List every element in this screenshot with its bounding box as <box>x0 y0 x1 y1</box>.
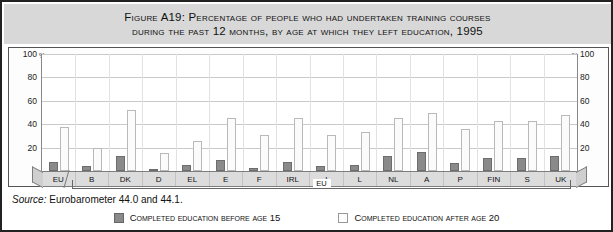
legend-item-2[interactable]: Completed education after age 20 <box>338 212 499 223</box>
y-axis-tick-100: 100 <box>580 50 606 59</box>
chart-legend: Completed education before age 15Complet… <box>2 212 611 223</box>
y-axis-tick-20: 20 <box>11 144 37 153</box>
bar-group-fin[interactable] <box>477 54 510 171</box>
figure-title-band: Figure A19: Percentage of people who had… <box>4 4 611 44</box>
bar-uk-series-1[interactable] <box>550 156 559 171</box>
bar-group-eu[interactable] <box>42 54 75 171</box>
legend-item-1[interactable]: Completed education before age 15 <box>114 212 281 223</box>
chart-plot-area: % % 10080604020 10080604020 EUBDKDELEFIR… <box>8 47 609 187</box>
bar-group-uk[interactable] <box>544 54 577 171</box>
bar-b-series-2[interactable] <box>93 148 102 171</box>
page-title-line-2: during the past 12 months, by age at whi… <box>132 24 483 38</box>
bar-nl-series-2[interactable] <box>394 118 403 171</box>
bar-group-nl[interactable] <box>376 54 409 171</box>
bar-group-b[interactable] <box>75 54 108 171</box>
bar-group-i[interactable] <box>310 54 343 171</box>
bar-irl-series-2[interactable] <box>294 118 303 171</box>
y-axis-tick-60: 60 <box>580 97 606 106</box>
bar-f-series-2[interactable] <box>260 135 269 171</box>
bar-group-f[interactable] <box>243 54 276 171</box>
bar-dk-series-2[interactable] <box>127 110 136 171</box>
bar-fin-series-2[interactable] <box>494 121 503 171</box>
bar-s-series-2[interactable] <box>528 121 537 171</box>
eu-bracket-label: EU <box>313 179 331 188</box>
page-title-line-1: Figure A19: Percentage of people who had… <box>124 10 490 24</box>
bar-group-d[interactable] <box>142 54 175 171</box>
y-axis-tick-40: 40 <box>580 120 606 129</box>
dark-swatch-icon <box>114 213 124 223</box>
bar-e-series-2[interactable] <box>227 118 236 171</box>
bar-dk-series-1[interactable] <box>116 156 125 171</box>
light-swatch-icon <box>338 213 348 223</box>
source-label: Source: <box>12 194 46 205</box>
bar-eu-series-1[interactable] <box>49 162 58 171</box>
y-axis-tick-40: 40 <box>11 120 37 129</box>
bar-i-series-2[interactable] <box>327 135 336 171</box>
bar-fin-series-1[interactable] <box>483 158 492 171</box>
bar-p-series-1[interactable] <box>450 163 459 171</box>
source-text: Eurobarometer 44.0 and 44.1. <box>46 194 182 205</box>
bar-l-series-2[interactable] <box>361 132 370 171</box>
y-axis-tick-80: 80 <box>580 73 606 82</box>
bar-group-el[interactable] <box>176 54 209 171</box>
bar-uk-series-2[interactable] <box>561 115 570 171</box>
bar-group-e[interactable] <box>209 54 242 171</box>
y-axis-tick-60: 60 <box>11 97 37 106</box>
bar-group-dk[interactable] <box>109 54 142 171</box>
bar-a-series-1[interactable] <box>417 152 426 171</box>
figure-container: Figure A19: Percentage of people who had… <box>0 0 613 232</box>
bar-groups <box>42 54 577 171</box>
bar-el-series-2[interactable] <box>193 141 202 171</box>
bar-group-irl[interactable] <box>276 54 309 171</box>
bar-s-series-1[interactable] <box>517 158 526 171</box>
source-note: Source: Eurobarometer 44.0 and 44.1. <box>12 194 183 205</box>
bar-a-series-2[interactable] <box>428 113 437 172</box>
y-axis-tick-20: 20 <box>580 144 606 153</box>
bar-irl-series-1[interactable] <box>283 162 292 171</box>
legend-label-2: Completed education after age 20 <box>354 212 499 223</box>
bar-p-series-2[interactable] <box>461 129 470 171</box>
bar-nl-series-1[interactable] <box>383 156 392 171</box>
chart-canvas <box>41 54 578 171</box>
bar-eu-series-2[interactable] <box>60 127 69 171</box>
legend-label-1: Completed education before age 15 <box>130 212 281 223</box>
eu-bracket: EU <box>72 180 571 189</box>
y-axis-tick-80: 80 <box>11 73 37 82</box>
bar-e-series-1[interactable] <box>216 160 225 171</box>
bar-group-a[interactable] <box>410 54 443 171</box>
category-label-eu: EU <box>42 172 76 186</box>
bar-group-p[interactable] <box>443 54 476 171</box>
bar-group-l[interactable] <box>343 54 376 171</box>
bar-group-s[interactable] <box>510 54 543 171</box>
y-axis-tick-100: 100 <box>11 50 37 59</box>
bar-d-series-2[interactable] <box>160 153 169 171</box>
